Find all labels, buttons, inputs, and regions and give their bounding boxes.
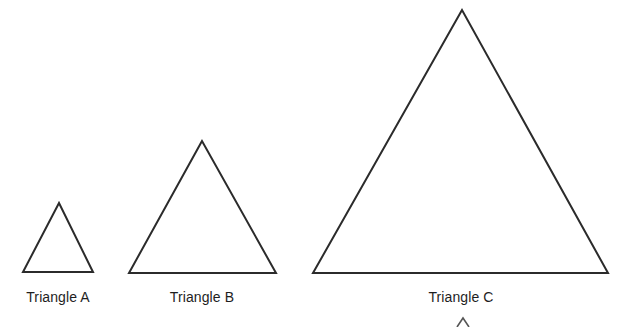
triangle-c-shape bbox=[313, 10, 608, 273]
triangle-comparison-figure: Triangle A Triangle B Triangle C bbox=[0, 0, 627, 327]
triangle-a-shape bbox=[23, 203, 93, 272]
triangle-a-label: Triangle A bbox=[26, 289, 90, 305]
triangle-d-partial-apex-icon bbox=[457, 318, 469, 327]
triangle-b-shape bbox=[129, 141, 276, 273]
triangles-svg bbox=[0, 0, 627, 327]
triangle-c-label: Triangle C bbox=[428, 289, 493, 305]
triangle-b-label: Triangle B bbox=[170, 289, 234, 305]
